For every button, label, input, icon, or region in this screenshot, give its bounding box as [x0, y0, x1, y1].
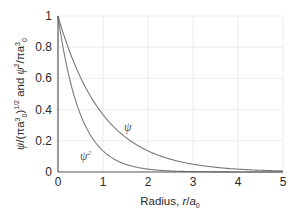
x-axis-label: Radius, r/a0: [140, 195, 200, 209]
psi-curve-label: ψ: [124, 120, 132, 134]
y-tick-label: 1: [45, 9, 52, 23]
curves: [58, 16, 283, 172]
x-tick-label: 5: [280, 175, 287, 189]
x-axis-label-sub: 0: [196, 202, 200, 209]
x-tick-labels: 012345: [55, 175, 287, 189]
x-tick-label: 1: [100, 175, 107, 189]
y-tick-labels: 00.20.40.60.81: [35, 9, 52, 179]
y-tick-label: 0.4: [35, 103, 52, 117]
x-tick-label: 3: [190, 175, 197, 189]
y-tick-label: 0.8: [35, 40, 52, 54]
psi-squared-superscript: 2: [87, 149, 91, 157]
psi-squared-curve: [58, 16, 283, 172]
x-tick-label: 2: [145, 175, 152, 189]
axes: [58, 16, 283, 172]
psi-squared-curve-label: ψ2: [80, 149, 91, 163]
svg-text:ψ/(πa30)1/2 and ψ2/πa30: ψ/(πa30)1/2 and ψ2/πa30: [13, 38, 28, 150]
grid-lines: [58, 16, 283, 172]
y-tick-label: 0.6: [35, 71, 52, 85]
chart-canvas: 012345 00.20.40.60.81 ψ ψ2 Radius, r/a0 …: [0, 0, 299, 217]
y-tick-label: 0: [45, 165, 52, 179]
psi-curve: [58, 16, 283, 171]
x-tick-label: 0: [55, 175, 62, 189]
x-tick-label: 4: [235, 175, 242, 189]
x-axis-label-prefix: Radius,: [140, 195, 182, 207]
y-tick-label: 0.2: [35, 134, 52, 148]
y-axis-label: ψ/(πa30)1/2 and ψ2/πa30: [13, 38, 28, 150]
